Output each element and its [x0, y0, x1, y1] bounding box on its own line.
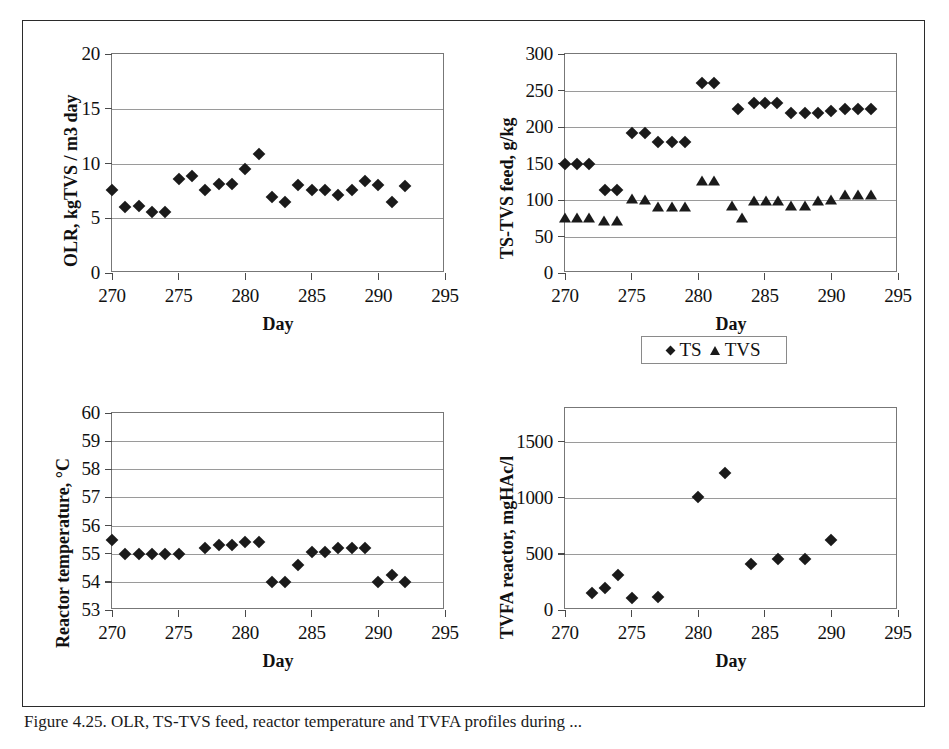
data-point-diamond	[212, 539, 225, 552]
data-point-diamond	[812, 107, 825, 120]
y-tick-mark	[558, 497, 565, 498]
chart-tvfa-plot: 050010001500270275280285290295	[475, 386, 926, 686]
x-tick-mark	[898, 610, 899, 617]
data-point-triangle	[708, 176, 720, 186]
data-point-diamond	[305, 183, 318, 196]
data-point-triangle	[839, 189, 851, 199]
y-tick-mark	[105, 413, 112, 414]
data-point-diamond	[186, 169, 199, 182]
legend-label-tvs: TVS	[725, 339, 761, 361]
data-point-triangle	[785, 200, 797, 210]
data-point-diamond	[292, 559, 305, 572]
data-point-diamond	[359, 542, 372, 555]
data-point-diamond	[625, 591, 638, 604]
x-tick-label: 290	[365, 622, 393, 644]
data-point-triangle	[611, 216, 623, 226]
data-point-triangle	[865, 189, 877, 199]
x-tick-label: 295	[884, 285, 912, 307]
data-point-diamond	[305, 546, 318, 559]
x-tick-mark	[245, 610, 246, 617]
gridline	[565, 554, 896, 555]
data-point-triangle	[626, 194, 638, 204]
y-tick-label: 500	[491, 543, 553, 565]
x-tick-label: 285	[298, 285, 326, 307]
y-tick-label: 150	[491, 153, 553, 175]
data-point-diamond	[239, 163, 252, 176]
chart-temp-plot: 5354555657585960270275280285290295	[23, 386, 475, 686]
chart-olr-plot-area: 05101520270275280285290295	[111, 53, 444, 272]
figure-frame: OLR, kgTVS / m3 day 05101520270275280285…	[22, 20, 925, 707]
diamond-icon	[666, 345, 676, 355]
data-point-diamond	[146, 205, 159, 218]
chart-olr-xlabel: Day	[263, 314, 294, 335]
y-tick-label: 54	[38, 571, 100, 593]
x-tick-mark	[311, 610, 312, 617]
chart-panel-reactor-temperature: Reactor temperature, °C 5354555657585960…	[23, 386, 475, 708]
y-tick-label: 60	[38, 402, 100, 424]
data-point-diamond	[758, 97, 771, 110]
y-tick-label: 59	[38, 430, 100, 452]
data-point-triangle	[598, 216, 610, 226]
x-tick-label: 280	[684, 285, 712, 307]
x-tick-label: 295	[884, 622, 912, 644]
x-tick-label: 285	[751, 285, 779, 307]
x-tick-mark	[445, 273, 446, 280]
gridline	[565, 498, 896, 499]
data-point-diamond	[279, 575, 292, 588]
x-tick-label: 270	[98, 285, 126, 307]
data-point-diamond	[718, 467, 731, 480]
data-point-diamond	[106, 533, 119, 546]
data-point-diamond	[825, 533, 838, 546]
x-tick-mark	[378, 273, 379, 280]
gridline	[112, 109, 443, 110]
data-point-diamond	[692, 490, 705, 503]
legend-label-ts: TS	[679, 339, 701, 361]
data-point-diamond	[119, 201, 132, 214]
x-tick-mark	[565, 273, 566, 280]
legend-item-ts: TS	[667, 339, 701, 361]
data-point-diamond	[212, 178, 225, 191]
data-point-diamond	[132, 200, 145, 213]
y-tick-label: 1500	[491, 431, 553, 453]
x-tick-label: 280	[684, 622, 712, 644]
chart-panel-tvfa-reactor: TVFA reactor, mgHAc/l 050010001500270275…	[475, 386, 926, 708]
x-tick-mark	[698, 273, 699, 280]
data-point-triangle	[559, 213, 571, 223]
data-point-diamond	[732, 102, 745, 115]
data-point-diamond	[332, 189, 345, 202]
y-tick-label: 0	[38, 262, 100, 284]
y-tick-mark	[105, 553, 112, 554]
y-tick-mark	[558, 236, 565, 237]
y-tick-mark	[105, 163, 112, 164]
data-point-triangle	[583, 212, 595, 222]
data-point-diamond	[585, 587, 598, 600]
y-tick-label: 200	[491, 116, 553, 138]
y-tick-label: 1000	[491, 487, 553, 509]
x-tick-mark	[565, 610, 566, 617]
x-tick-label: 270	[551, 622, 579, 644]
x-tick-mark	[764, 273, 765, 280]
data-point-diamond	[199, 183, 212, 196]
y-tick-mark	[105, 525, 112, 526]
legend: TS TVS	[641, 336, 787, 364]
data-point-triangle	[652, 201, 664, 211]
data-point-diamond	[279, 195, 292, 208]
y-tick-mark	[105, 108, 112, 109]
data-point-diamond	[372, 575, 385, 588]
x-tick-label: 290	[818, 622, 846, 644]
y-tick-label: 100	[491, 189, 553, 211]
data-point-diamond	[239, 536, 252, 549]
data-point-diamond	[292, 179, 305, 192]
data-point-diamond	[159, 547, 172, 560]
data-point-diamond	[265, 575, 278, 588]
x-tick-label: 290	[365, 285, 393, 307]
gridline	[565, 91, 896, 92]
data-point-triangle	[812, 195, 824, 205]
y-tick-label: 20	[38, 43, 100, 65]
y-tick-label: 0	[491, 599, 553, 621]
x-tick-mark	[112, 273, 113, 280]
y-tick-label: 57	[38, 486, 100, 508]
chart-panel-olr: OLR, kgTVS / m3 day 05101520270275280285…	[23, 21, 475, 341]
data-point-triangle	[852, 189, 864, 199]
data-point-diamond	[865, 102, 878, 115]
